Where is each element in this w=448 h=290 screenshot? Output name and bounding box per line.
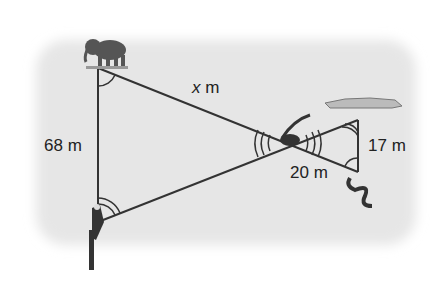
label-17m: 17 m (368, 136, 406, 156)
label-20m: 20 m (290, 163, 328, 183)
diagram: x m 68 m 17 m 20 m (0, 0, 448, 290)
label-x: x m (192, 78, 219, 98)
label-68m: 68 m (44, 136, 82, 156)
